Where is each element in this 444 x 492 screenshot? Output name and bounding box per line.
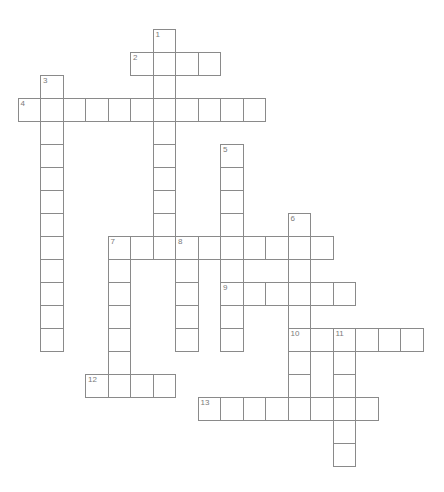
- crossword-cell[interactable]: [153, 190, 177, 214]
- crossword-cell[interactable]: [130, 98, 154, 122]
- crossword-cell[interactable]: [220, 397, 244, 421]
- clue-number: 1: [156, 31, 160, 39]
- crossword-cell[interactable]: 5: [220, 144, 244, 168]
- crossword-cell[interactable]: [355, 397, 379, 421]
- crossword-cell[interactable]: [40, 328, 64, 352]
- clue-number: 8: [178, 238, 182, 246]
- crossword-cell[interactable]: [40, 98, 64, 122]
- crossword-cell[interactable]: [243, 236, 267, 260]
- crossword-cell[interactable]: [265, 282, 289, 306]
- crossword-cell[interactable]: [243, 98, 267, 122]
- crossword-cell[interactable]: [198, 98, 222, 122]
- crossword-cell[interactable]: [310, 328, 334, 352]
- crossword-cell[interactable]: [175, 328, 199, 352]
- crossword-cell[interactable]: [85, 98, 109, 122]
- crossword-cell[interactable]: 4: [18, 98, 42, 122]
- crossword-cell[interactable]: [288, 397, 312, 421]
- crossword-cell[interactable]: [153, 167, 177, 191]
- crossword-cell[interactable]: 9: [220, 282, 244, 306]
- crossword-cell[interactable]: [63, 98, 87, 122]
- crossword-cell[interactable]: [153, 144, 177, 168]
- crossword-cell[interactable]: [243, 282, 267, 306]
- crossword-cell[interactable]: [288, 351, 312, 375]
- crossword-cell[interactable]: [220, 259, 244, 283]
- crossword-cell[interactable]: [153, 213, 177, 237]
- crossword-cell[interactable]: [220, 167, 244, 191]
- crossword-cell[interactable]: [40, 259, 64, 283]
- crossword-cell[interactable]: [175, 259, 199, 283]
- crossword-cell[interactable]: [108, 259, 132, 283]
- crossword-cell[interactable]: [198, 236, 222, 260]
- crossword-grid: 12345961078111213: [0, 0, 444, 492]
- crossword-cell[interactable]: 3: [40, 75, 64, 99]
- clue-number: 6: [291, 215, 295, 223]
- crossword-cell[interactable]: [40, 190, 64, 214]
- clue-number: 9: [223, 284, 227, 292]
- crossword-cell[interactable]: [333, 351, 357, 375]
- crossword-cell[interactable]: 6: [288, 213, 312, 237]
- crossword-cell[interactable]: [333, 420, 357, 444]
- crossword-cell[interactable]: [333, 443, 357, 467]
- crossword-cell[interactable]: [130, 374, 154, 398]
- crossword-cell[interactable]: [108, 282, 132, 306]
- crossword-cell[interactable]: [400, 328, 424, 352]
- crossword-cell[interactable]: [220, 190, 244, 214]
- crossword-cell[interactable]: [220, 213, 244, 237]
- crossword-cell[interactable]: [175, 52, 199, 76]
- crossword-cell[interactable]: [108, 328, 132, 352]
- crossword-cell[interactable]: [40, 167, 64, 191]
- crossword-cell[interactable]: [220, 98, 244, 122]
- crossword-cell[interactable]: [40, 236, 64, 260]
- crossword-cell[interactable]: 12: [85, 374, 109, 398]
- crossword-cell[interactable]: [153, 98, 177, 122]
- crossword-cell[interactable]: 8: [175, 236, 199, 260]
- crossword-cell[interactable]: 10: [288, 328, 312, 352]
- crossword-cell[interactable]: [288, 259, 312, 283]
- crossword-cell[interactable]: [220, 236, 244, 260]
- crossword-cell[interactable]: [265, 397, 289, 421]
- crossword-cell[interactable]: [40, 282, 64, 306]
- crossword-cell[interactable]: 13: [198, 397, 222, 421]
- crossword-cell[interactable]: [153, 374, 177, 398]
- crossword-cell[interactable]: [153, 121, 177, 145]
- crossword-cell[interactable]: 7: [108, 236, 132, 260]
- crossword-cell[interactable]: [108, 351, 132, 375]
- crossword-cell[interactable]: [243, 397, 267, 421]
- crossword-cell[interactable]: [130, 236, 154, 260]
- crossword-cell[interactable]: [198, 52, 222, 76]
- crossword-cell[interactable]: 1: [153, 29, 177, 53]
- crossword-cell[interactable]: [333, 397, 357, 421]
- crossword-cell[interactable]: [40, 144, 64, 168]
- crossword-cell[interactable]: [175, 98, 199, 122]
- clue-number: 7: [111, 238, 115, 246]
- crossword-cell[interactable]: [310, 236, 334, 260]
- crossword-cell[interactable]: [265, 236, 289, 260]
- crossword-cell[interactable]: [333, 374, 357, 398]
- crossword-cell[interactable]: [175, 282, 199, 306]
- crossword-cell[interactable]: [40, 305, 64, 329]
- crossword-cell[interactable]: [153, 75, 177, 99]
- crossword-cell[interactable]: [288, 374, 312, 398]
- crossword-cell[interactable]: [378, 328, 402, 352]
- crossword-cell[interactable]: [108, 374, 132, 398]
- clue-number: 4: [21, 100, 25, 108]
- crossword-cell[interactable]: [310, 397, 334, 421]
- crossword-cell[interactable]: 11: [333, 328, 357, 352]
- crossword-cell[interactable]: [288, 236, 312, 260]
- crossword-cell[interactable]: [153, 236, 177, 260]
- crossword-cell[interactable]: [220, 328, 244, 352]
- crossword-cell[interactable]: [153, 52, 177, 76]
- crossword-cell[interactable]: [108, 305, 132, 329]
- crossword-cell[interactable]: [288, 282, 312, 306]
- crossword-cell[interactable]: [108, 98, 132, 122]
- crossword-cell[interactable]: [40, 121, 64, 145]
- crossword-cell[interactable]: [310, 282, 334, 306]
- crossword-cell[interactable]: [288, 305, 312, 329]
- crossword-cell[interactable]: 2: [130, 52, 154, 76]
- clue-number: 10: [291, 330, 300, 338]
- crossword-cell[interactable]: [355, 328, 379, 352]
- crossword-cell[interactable]: [220, 305, 244, 329]
- crossword-cell[interactable]: [175, 305, 199, 329]
- crossword-cell[interactable]: [333, 282, 357, 306]
- crossword-cell[interactable]: [40, 213, 64, 237]
